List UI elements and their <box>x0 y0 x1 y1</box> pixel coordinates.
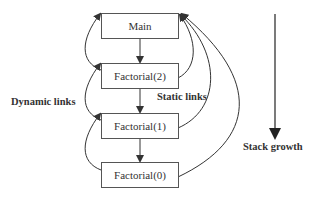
frame-factorial-0-label: Factorial(0) <box>114 169 166 181</box>
static-links-label: Static links <box>157 91 207 102</box>
stack-frame-diagram: Main Factorial(2) Factorial(1) Factorial… <box>0 0 312 197</box>
frame-factorial-1: Factorial(1) <box>101 113 179 139</box>
stack-growth-label: Stack growth <box>243 141 303 152</box>
frame-main-label: Main <box>128 20 151 32</box>
frame-factorial-2: Factorial(2) <box>101 63 179 89</box>
dynamic-link-factorial0-to-factorial1 <box>85 114 101 170</box>
frame-factorial-2-label: Factorial(2) <box>114 70 166 82</box>
dynamic-link-factorial2-to-main <box>85 14 101 70</box>
dynamic-link-factorial1-to-factorial2 <box>85 64 101 120</box>
frame-main: Main <box>101 13 179 39</box>
dynamic-links <box>85 14 101 170</box>
dynamic-links-label: Dynamic links <box>11 96 75 107</box>
static-link-factorial2-to-main <box>178 15 193 78</box>
frame-factorial-0: Factorial(0) <box>101 162 179 188</box>
static-link-factorial1-to-main <box>178 15 211 128</box>
frame-factorial-1-label: Factorial(1) <box>114 120 166 132</box>
